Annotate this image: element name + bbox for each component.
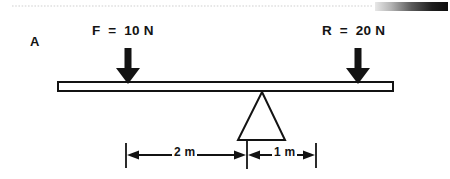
force-arrow-left bbox=[116, 48, 140, 84]
figure-canvas: A F = 10 N R = 20 N 2 m 1 m bbox=[0, 0, 450, 179]
gradient-bar bbox=[375, 2, 448, 11]
force-arrow-right bbox=[346, 48, 370, 84]
dimension-right-label: 1 m bbox=[272, 146, 297, 158]
fulcrum-triangle bbox=[238, 92, 285, 140]
lever-beam bbox=[58, 82, 393, 91]
dimension-left-label: 2 m bbox=[172, 146, 197, 158]
panel-label: A bbox=[30, 35, 40, 48]
force-right-label: R = 20 N bbox=[322, 24, 385, 38]
force-left-label: F = 10 N bbox=[92, 24, 154, 38]
